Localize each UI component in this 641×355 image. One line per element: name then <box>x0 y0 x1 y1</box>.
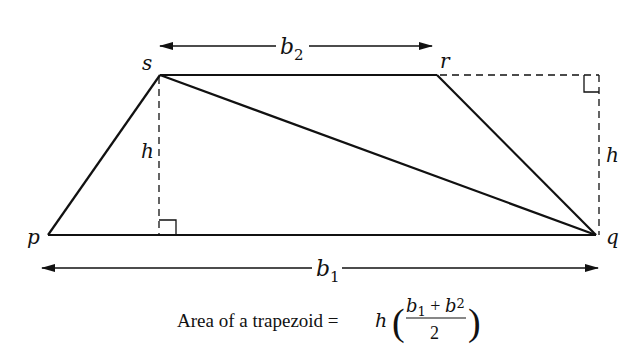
label-h-left: h <box>141 139 154 163</box>
formula-rparen: ) <box>468 301 481 344</box>
vertex-label-s: s <box>142 51 152 75</box>
diagonal-sq <box>160 75 596 235</box>
label-h-right: h <box>606 143 619 167</box>
vertex-label-r: r <box>440 49 451 73</box>
label-b2: b2 <box>280 34 304 64</box>
edge-rq <box>437 75 596 235</box>
formula-denominator: 2 <box>430 323 439 343</box>
formula-numerator: b1 + b2 <box>406 295 465 319</box>
formula-h: h <box>375 309 387 331</box>
label-b1: b1 <box>316 256 340 286</box>
vertex-label-p: p <box>27 225 40 249</box>
trapezoid-diagram: s r p q b2 b1 h h Area of a trapezoid = … <box>0 0 641 355</box>
trapezoid-edges <box>48 75 596 235</box>
right-angle-mark-bottom <box>159 220 176 235</box>
vertex-label-q: q <box>606 225 619 249</box>
formula-text: Area of a trapezoid = <box>177 310 339 331</box>
right-angle-mark-top <box>584 75 599 92</box>
area-formula: Area of a trapezoid = h ( b1 + b2 2 ) <box>177 295 481 344</box>
formula-lparen: ( <box>392 301 405 344</box>
